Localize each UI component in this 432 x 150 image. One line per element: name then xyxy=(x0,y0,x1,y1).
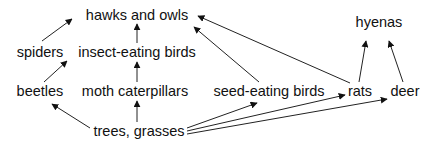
node-hyenas: hyenas xyxy=(356,15,403,30)
edge-spiders-hawks xyxy=(42,19,72,41)
edge-trees-deer xyxy=(187,99,387,134)
node-moth-caterpillars: moth caterpillars xyxy=(82,84,188,99)
edge-trees-rats xyxy=(187,95,345,131)
edge-beetles-spiders xyxy=(44,61,67,82)
edge-trees-seedbirds xyxy=(187,103,257,128)
edge-trees-beetles xyxy=(52,104,90,128)
edge-rats-hyenas xyxy=(359,41,366,82)
food-web-diagram: hawks and owls hyenas spiders insect-eat… xyxy=(0,0,432,150)
node-seed-eating-birds: seed-eating birds xyxy=(213,84,324,99)
node-deer: deer xyxy=(390,84,419,99)
node-beetles: beetles xyxy=(17,84,64,99)
node-hawks-and-owls: hawks and owls xyxy=(86,8,188,23)
edge-seedbirds-hawks xyxy=(194,27,259,82)
edge-deer-hyenas xyxy=(389,41,403,82)
node-trees-grasses: trees, grasses xyxy=(93,124,184,139)
node-insect-eating-birds: insect-eating birds xyxy=(78,45,196,60)
node-rats: rats xyxy=(348,84,372,99)
node-spiders: spiders xyxy=(17,45,64,60)
